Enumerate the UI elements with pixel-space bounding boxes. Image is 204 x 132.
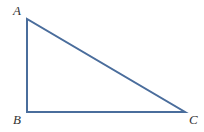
geometry-figure: A B C	[0, 0, 204, 132]
vertex-label-a: A	[13, 4, 21, 17]
triangle-shape	[27, 19, 185, 112]
vertex-label-c: C	[189, 113, 198, 126]
triangle-canvas	[0, 0, 204, 132]
vertex-label-b: B	[13, 113, 21, 126]
